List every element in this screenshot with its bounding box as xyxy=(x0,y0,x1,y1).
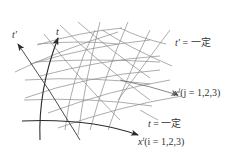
constant-text: 一定 xyxy=(161,118,181,129)
index-range: (j = 1,2,3) xyxy=(180,87,220,98)
equals-sign: = xyxy=(151,118,162,129)
xj-arrow xyxy=(120,80,178,95)
xj-direction-lines xyxy=(44,22,172,120)
t-prime-const-label: t′ = 一定 xyxy=(175,38,211,48)
t-prime-axis-label: t′ xyxy=(12,30,17,40)
t-const-label: t = 一定 xyxy=(148,119,181,129)
equals-sign: = xyxy=(180,37,191,48)
t-prime-symbol: t′ xyxy=(12,29,17,40)
coordinate-grid-diagram: t′ t t′ = 一定 xj(j = 1,2,3) t = 一定 xi(i =… xyxy=(0,0,244,159)
t-axis-label: t xyxy=(56,27,59,37)
grid-svg xyxy=(0,0,244,159)
t-symbol: t xyxy=(56,26,59,37)
t-axis-curve xyxy=(40,38,58,140)
xi-label: xi(i = 1,2,3) xyxy=(138,136,184,147)
index-range: (i = 1,2,3) xyxy=(144,136,184,147)
constant-text: 一定 xyxy=(191,37,211,48)
xj-label: xj(j = 1,2,3) xyxy=(174,87,220,98)
